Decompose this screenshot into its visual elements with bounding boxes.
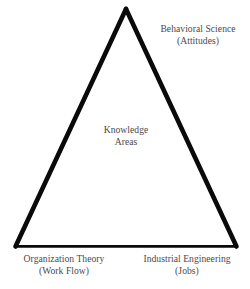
vertex-label-organization-theory-line1: Organization Theory (8, 253, 120, 265)
center-label-line2: Areas (77, 136, 175, 148)
vertex-label-industrial-engineering: Industrial Engineering (Jobs) (130, 253, 244, 277)
triangle-diagram: Behavioral Science (Attitudes) Knowledge… (0, 0, 250, 289)
vertex-label-industrial-engineering-line2: (Jobs) (130, 265, 244, 277)
vertex-label-organization-theory: Organization Theory (Work Flow) (8, 253, 120, 277)
vertex-label-behavioral-science: Behavioral Science (Attitudes) (148, 23, 248, 47)
vertex-label-behavioral-science-line2: (Attitudes) (148, 35, 248, 47)
vertex-label-industrial-engineering-line1: Industrial Engineering (130, 253, 244, 265)
center-label-line1: Knowledge (77, 124, 175, 136)
vertex-label-organization-theory-line2: (Work Flow) (8, 265, 120, 277)
center-label-knowledge-areas: Knowledge Areas (77, 124, 175, 148)
vertex-label-behavioral-science-line1: Behavioral Science (148, 23, 248, 35)
